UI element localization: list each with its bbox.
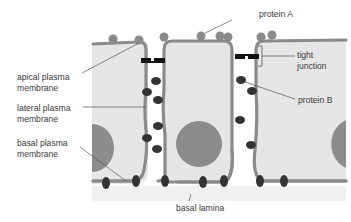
protein-b	[247, 87, 257, 95]
protein-a	[160, 33, 169, 42]
protein-a	[109, 35, 118, 44]
protein-a	[224, 33, 233, 42]
protein-a	[268, 31, 277, 40]
leader-protein-a	[205, 20, 232, 33]
protein-b	[256, 175, 264, 187]
tight-junction-left	[141, 58, 165, 63]
label-tight-junction: tight junction	[297, 50, 327, 71]
protein-b	[161, 175, 169, 187]
protein-b	[246, 141, 256, 149]
protein-b	[153, 122, 163, 130]
protein-b	[151, 77, 161, 85]
protein-b	[235, 116, 245, 124]
protein-b	[280, 175, 288, 187]
tight-junction-right	[235, 54, 259, 59]
label-lateral-plasma-membrane: lateral plasma membrane	[17, 103, 71, 124]
protein-b	[220, 175, 228, 187]
protein-b	[199, 176, 207, 188]
protein-a	[257, 33, 266, 42]
protein-b	[142, 88, 152, 96]
protein-b	[153, 96, 163, 104]
protein-b	[102, 177, 110, 189]
protein-a	[197, 32, 206, 41]
protein-a	[216, 32, 225, 41]
label-protein-b: protein B	[298, 95, 332, 106]
protein-b	[152, 145, 162, 153]
label-basal-lamina: basal lamina	[176, 203, 224, 214]
label-protein-a: protein A	[259, 9, 293, 20]
protein-b	[142, 134, 152, 142]
protein-b	[236, 76, 246, 84]
basal-lamina	[92, 186, 346, 201]
label-apical-plasma-membrane: apical plasma membrane	[17, 72, 70, 93]
protein-b	[132, 175, 140, 187]
nucleus-middle	[176, 121, 222, 167]
label-basal-plasma-membrane: basal plasma membrane	[17, 138, 68, 159]
